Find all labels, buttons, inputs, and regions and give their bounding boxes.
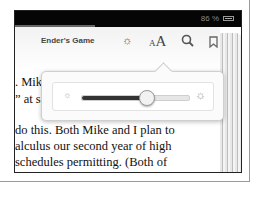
brightness-icon[interactable]: ☼ xyxy=(122,34,132,46)
brightness-popover: ☼ ☼ xyxy=(41,71,224,121)
brightness-slider[interactable] xyxy=(81,95,190,101)
battery-icon xyxy=(223,16,234,21)
book-title: Ender's Game xyxy=(41,36,94,45)
search-icon[interactable] xyxy=(181,33,194,51)
text-line: do this. Both Mike and I plan to xyxy=(15,123,175,138)
text-line: nterested in science/math re- xyxy=(15,171,158,173)
text-line: . Mik xyxy=(15,75,42,90)
brightness-slider-thumb[interactable] xyxy=(139,90,155,106)
font-size-icon[interactable]: AA xyxy=(149,33,166,50)
bookmark-icon[interactable] xyxy=(209,34,218,52)
brightness-slider-container: ☼ ☼ xyxy=(52,82,214,111)
brightness-slider-fill xyxy=(82,96,144,100)
font-large-glyph: A xyxy=(156,33,167,49)
brightness-low-icon: ☼ xyxy=(63,90,71,100)
battery-percent: 86 % xyxy=(201,14,219,23)
text-line: schedules permitting. (Both of xyxy=(15,155,167,170)
brightness-high-icon: ☼ xyxy=(195,88,206,102)
device-screen: 86 % Ender's Game ☼ AA . Mik ” at s do t… xyxy=(14,10,242,173)
text-line: ” at s xyxy=(15,92,41,107)
text-line: alculus our second year of high xyxy=(15,139,172,154)
